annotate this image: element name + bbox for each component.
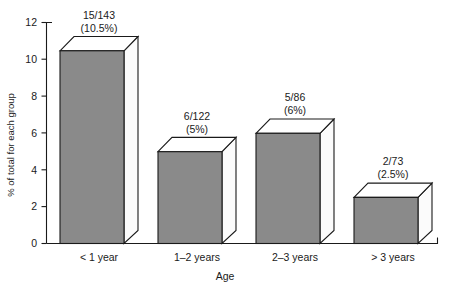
x-tick-label-0: < 1 year [80, 251, 119, 263]
bar-chart: % of total for each group 0 2 4 6 8 10 1… [0, 0, 451, 287]
x-tick-label-2: 2–3 years [272, 251, 318, 263]
bar-front-0 [60, 51, 124, 244]
chart-svg: % of total for each group 0 2 4 6 8 10 1… [0, 0, 451, 287]
bar-top-0 [60, 37, 138, 51]
y-tick-label-0: 0 [31, 237, 37, 249]
bar-value-1-line1: 6/122 [184, 110, 210, 122]
x-tick-label-1: 1–2 years [174, 251, 220, 263]
bar-side-2 [320, 119, 334, 244]
y-axis-title: % of total for each group [5, 93, 16, 197]
y-axis-ticks [42, 23, 47, 244]
y-tick-label-12: 12 [25, 16, 37, 28]
y-tick-label-6: 6 [31, 127, 37, 139]
bar-value-0-line1: 15/143 [83, 9, 115, 21]
bar-group-3 [354, 183, 432, 243]
bar-group-1 [158, 137, 236, 243]
bar-value-1-line2: (5%) [186, 123, 208, 135]
bar-side-0 [124, 37, 138, 244]
bar-value-3-line1: 2/73 [383, 155, 404, 167]
bar-front-1 [158, 152, 222, 244]
y-tick-label-2: 2 [31, 200, 37, 212]
x-axis-tick-labels: < 1 year 1–2 years 2–3 years > 3 years [80, 251, 415, 263]
bar-side-1 [222, 137, 236, 243]
y-tick-label-8: 8 [31, 90, 37, 102]
bar-front-3 [354, 197, 418, 243]
bar-group-2 [256, 119, 334, 244]
x-tick-label-3: > 3 years [371, 251, 414, 263]
y-axis-tick-labels: 0 2 4 6 8 10 12 [25, 16, 37, 249]
bar-value-2-line2: (6%) [284, 104, 306, 116]
bar-value-2-line1: 5/86 [285, 91, 306, 103]
bar-value-3-line2: (2.5%) [378, 168, 409, 180]
bar-top-2 [256, 119, 334, 133]
bar-front-2 [256, 133, 320, 243]
bar-top-3 [354, 183, 432, 197]
bar-value-0-line2: (10.5%) [81, 22, 118, 34]
y-tick-label-10: 10 [25, 53, 37, 65]
y-axis-line [47, 23, 53, 244]
bar-group-0 [60, 37, 138, 244]
bar-top-1 [158, 137, 236, 151]
y-tick-label-4: 4 [31, 164, 37, 176]
x-axis-title: Age [216, 270, 235, 282]
